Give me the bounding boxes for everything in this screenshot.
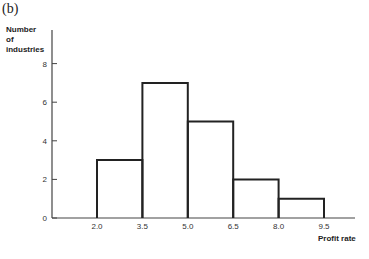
histogram-bar — [188, 122, 233, 219]
histogram-bar — [279, 199, 324, 218]
histogram-bar — [97, 160, 142, 218]
x-axis-label: Profit rate — [318, 234, 356, 243]
bars — [97, 83, 324, 218]
histogram-bar — [233, 179, 278, 218]
histogram-chart: 02468 2.03.55.06.58.09.5 — [0, 0, 369, 259]
x-tick-label: 5.0 — [182, 222, 194, 231]
x-tick-label: 8.0 — [273, 222, 285, 231]
x-tick-label: 9.5 — [318, 222, 330, 231]
y-tick-label: 0 — [43, 214, 48, 223]
x-tick-label: 6.5 — [228, 222, 240, 231]
histogram-bar — [142, 83, 187, 218]
y-tick-label: 4 — [43, 137, 48, 146]
x-ticks: 2.03.55.06.58.09.5 — [91, 222, 330, 231]
y-tick-label: 6 — [43, 98, 48, 107]
y-tick-label: 8 — [43, 60, 48, 69]
y-tick-label: 2 — [43, 175, 48, 184]
y-ticks: 02468 — [43, 60, 57, 223]
x-tick-label: 2.0 — [91, 222, 103, 231]
x-tick-label: 3.5 — [137, 222, 149, 231]
